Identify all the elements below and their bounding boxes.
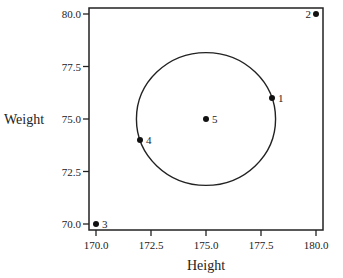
y-axis: 70.072.575.077.580.0 xyxy=(62,8,89,230)
y-tick-label: 72.5 xyxy=(62,166,82,178)
point-label: 3 xyxy=(102,218,108,230)
x-tick-label: 175.0 xyxy=(194,239,219,251)
data-point xyxy=(93,221,99,227)
x-axis-label: Height xyxy=(187,258,225,273)
point-label: 5 xyxy=(212,113,218,125)
points-layer: 12345 xyxy=(93,8,319,230)
x-tick-label: 177.5 xyxy=(249,239,274,251)
y-tick-label: 70.0 xyxy=(62,218,82,230)
point-label: 2 xyxy=(306,8,312,20)
y-tick-label: 77.5 xyxy=(62,61,82,73)
data-point xyxy=(203,116,209,122)
y-tick-label: 75.0 xyxy=(62,113,82,125)
y-tick-label: 80.0 xyxy=(62,8,82,20)
x-tick-label: 170.0 xyxy=(84,239,109,251)
x-tick-label: 180.0 xyxy=(304,239,329,251)
y-axis-label: Weight xyxy=(4,112,44,127)
data-point xyxy=(313,11,319,17)
scatter-chart: 170.0172.5175.0177.5180.0 70.072.575.077… xyxy=(0,0,343,278)
data-point xyxy=(269,95,275,101)
x-axis: 170.0172.5175.0177.5180.0 xyxy=(84,230,329,251)
point-label: 4 xyxy=(146,134,152,146)
point-label: 1 xyxy=(278,92,284,104)
data-point xyxy=(137,137,143,143)
x-tick-label: 172.5 xyxy=(139,239,164,251)
